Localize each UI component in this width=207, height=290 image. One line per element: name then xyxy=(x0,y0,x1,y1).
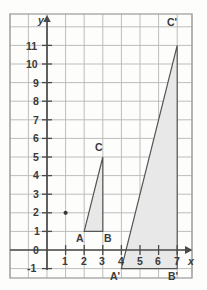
y-tick-label-9: 9 xyxy=(33,78,39,89)
y-tick-label-6: 6 xyxy=(33,133,39,144)
x-axis-label: x xyxy=(188,256,194,267)
vertex-label-a-prime: A' xyxy=(110,271,120,282)
y-tick-label-11: 11 xyxy=(26,41,37,52)
y-tick-label-10: 10 xyxy=(26,59,38,70)
y-tick-label-5: 5 xyxy=(33,152,39,163)
y-tick-label-neg1: -1 xyxy=(27,263,36,274)
y-tick-label-0: 0 xyxy=(33,245,39,256)
x-tick-label-6: 6 xyxy=(155,256,161,267)
vertex-label-c-prime: C' xyxy=(167,17,177,28)
x-tick-label-1: 1 xyxy=(62,256,68,267)
y-tick-label-3: 3 xyxy=(33,189,39,200)
center-of-dilation-point xyxy=(64,211,68,215)
y-tick-label-7: 7 xyxy=(33,115,39,126)
vertex-label-c: C xyxy=(95,142,103,153)
y-tick-label-8: 8 xyxy=(33,96,39,107)
x-tick-label-4: 4 xyxy=(118,256,124,267)
x-tick-label-5: 5 xyxy=(137,256,143,267)
y-tick-label-1: 1 xyxy=(34,226,40,237)
vertex-label-b-prime: B' xyxy=(168,271,178,282)
y-tick-label-2: 2 xyxy=(33,207,39,218)
vertex-label-a: A xyxy=(76,233,84,244)
coordinate-plane-figure: 11 10 9 8 7 6 5 4 3 2 1 0 -1 1 2 3 4 5 6… xyxy=(0,0,207,290)
x-tick-label-7: 7 xyxy=(174,256,180,267)
y-tick-label-4: 4 xyxy=(33,170,39,181)
x-tick-label-2: 2 xyxy=(81,256,87,267)
x-tick-label-3: 3 xyxy=(99,256,105,267)
vertex-label-b: B xyxy=(104,233,112,244)
y-axis-label: y xyxy=(38,15,44,26)
